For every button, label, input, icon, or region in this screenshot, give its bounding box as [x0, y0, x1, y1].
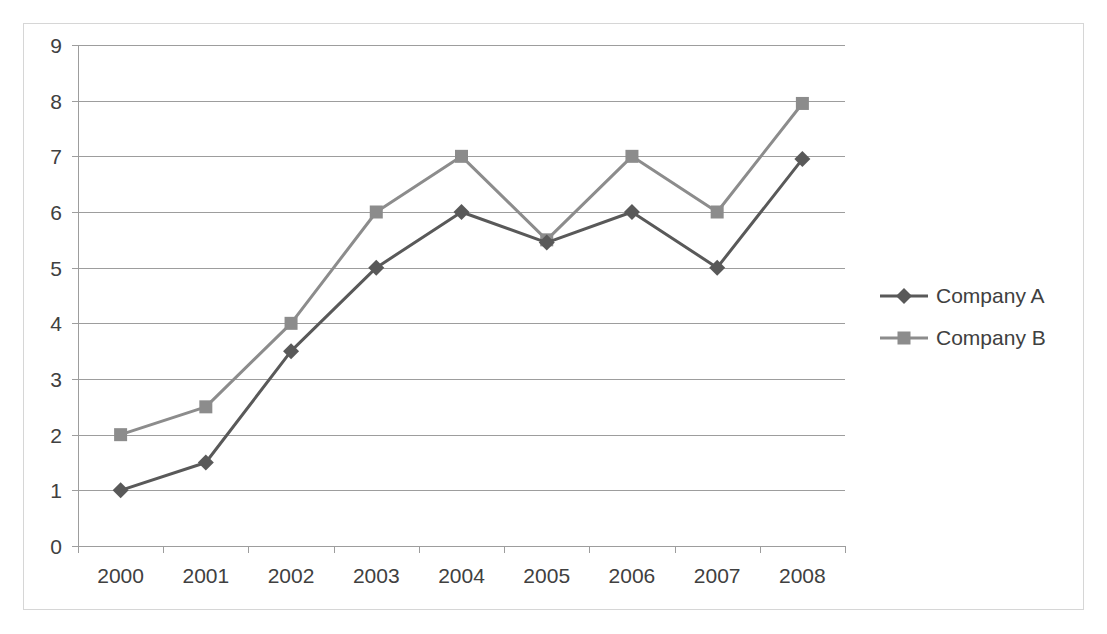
y-axis-label-0: 0 [50, 535, 62, 558]
y-axis-label-1: 1 [50, 479, 62, 502]
y-axis-label-2: 2 [50, 424, 62, 447]
data-point-company-b-2001 [199, 400, 212, 413]
x-axis-label-2003: 2003 [353, 564, 400, 587]
y-axis-label-8: 8 [50, 90, 62, 113]
x-axis-tick-marks [79, 546, 846, 553]
legend-label-company-b[interactable]: Company B [936, 326, 1046, 349]
data-point-company-b-2007 [711, 206, 724, 219]
data-point-company-b-2003 [370, 206, 383, 219]
x-axis-label-2008: 2008 [779, 564, 826, 587]
x-axis-label-2006: 2006 [609, 564, 656, 587]
y-axis-label-4: 4 [50, 312, 62, 335]
y-axis-tick-marks [72, 46, 78, 547]
y-axis-label-7: 7 [50, 145, 62, 168]
legend-label-company-a[interactable]: Company A [936, 284, 1045, 307]
y-axis-label-3: 3 [50, 368, 62, 391]
y-axis-label-9: 9 [50, 34, 62, 57]
plot-area-background [78, 45, 845, 546]
x-axis-label-2001: 2001 [182, 564, 229, 587]
x-axis-label-2002: 2002 [268, 564, 315, 587]
x-axis-label-2005: 2005 [523, 564, 570, 587]
y-axis-tick-labels: 0123456789 [50, 34, 62, 558]
y-axis-label-5: 5 [50, 257, 62, 280]
legend-marker-company-b [898, 332, 911, 345]
chart-container: 0123456789 20002001200220032004200520062… [0, 0, 1107, 634]
legend-marker-company-a [896, 288, 912, 304]
data-point-company-b-2004 [455, 150, 468, 163]
x-axis-tick-labels: 200020012002200320042005200620072008 [97, 564, 825, 587]
data-point-company-b-2006 [625, 150, 638, 163]
x-axis-label-2007: 2007 [694, 564, 741, 587]
chart-legend: Company ACompany B [880, 284, 1046, 349]
data-point-company-b-2008 [796, 97, 809, 110]
x-axis-label-2000: 2000 [97, 564, 144, 587]
data-point-company-b-2000 [114, 428, 127, 441]
data-point-company-b-2002 [285, 317, 298, 330]
x-axis-label-2004: 2004 [438, 564, 485, 587]
line-chart: 0123456789 20002001200220032004200520062… [0, 0, 1107, 634]
y-axis-label-6: 6 [50, 201, 62, 224]
